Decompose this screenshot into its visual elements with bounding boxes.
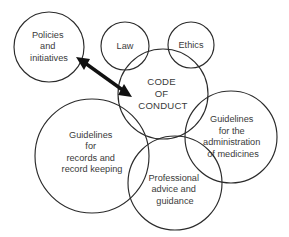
professional-line-1: Professional bbox=[148, 173, 199, 183]
code-of-conduct-diagram: Policies and initiatives Law Ethics CODE bbox=[0, 0, 289, 237]
records-line-2: for bbox=[85, 141, 96, 151]
medicines-line-3: administration bbox=[203, 137, 260, 147]
bubble-ethics[interactable]: Ethics bbox=[168, 22, 214, 68]
bubble-policies-and-initiatives[interactable]: Policies and initiatives bbox=[14, 12, 84, 82]
policies-line-3: initiatives bbox=[30, 53, 68, 63]
professional-line-3: guidance bbox=[156, 196, 193, 206]
code-line-3: CONDUCT bbox=[138, 100, 187, 111]
label-medicines: Guidelines for the administration of med… bbox=[203, 114, 263, 159]
records-line-4: record keeping bbox=[62, 164, 123, 174]
label-records: Guidelines for records and record keepin… bbox=[62, 130, 123, 175]
records-line-3: records and bbox=[66, 153, 115, 163]
label-code-of-conduct: CODE OF CONDUCT bbox=[138, 76, 187, 111]
law-line-1: Law bbox=[117, 41, 134, 51]
arrow-head-lower-right bbox=[118, 84, 132, 97]
label-law: Law bbox=[117, 41, 134, 51]
label-professional: Professional advice and guidance bbox=[148, 173, 201, 206]
policies-line-1: Policies bbox=[32, 30, 64, 40]
bubble-code-of-conduct[interactable]: CODE OF CONDUCT bbox=[118, 49, 208, 139]
code-line-1: CODE bbox=[147, 76, 176, 87]
professional-line-2: advice and bbox=[151, 184, 195, 194]
medicines-line-1: Guidelines bbox=[210, 114, 254, 124]
code-line-2: OF bbox=[155, 88, 169, 99]
records-line-1: Guidelines bbox=[69, 130, 113, 140]
medicines-line-2: for the bbox=[219, 126, 245, 136]
label-policies: Policies and initiatives bbox=[30, 30, 68, 63]
double-headed-arrow bbox=[76, 57, 132, 97]
bubble-law[interactable]: Law bbox=[101, 22, 149, 70]
arrow-shaft bbox=[85, 63, 124, 91]
ethics-line-1: Ethics bbox=[178, 40, 203, 50]
policies-line-2: and bbox=[40, 41, 55, 51]
bubble-records[interactable]: Guidelines for records and record keepin… bbox=[35, 99, 149, 213]
diagram-canvas: Policies and initiatives Law Ethics CODE bbox=[0, 0, 289, 237]
label-ethics: Ethics bbox=[178, 40, 203, 50]
bubble-medicines[interactable]: Guidelines for the administration of med… bbox=[185, 91, 277, 183]
